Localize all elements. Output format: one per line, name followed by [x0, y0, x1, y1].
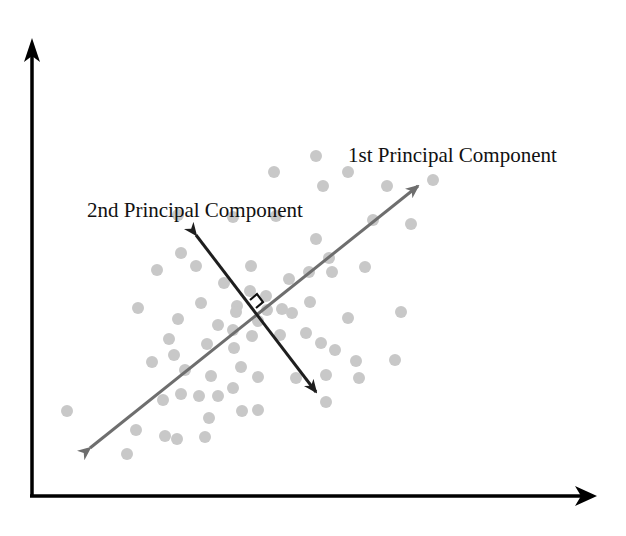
- data-point: [320, 369, 332, 381]
- data-point: [283, 273, 295, 285]
- data-point: [268, 166, 280, 178]
- data-point: [212, 390, 224, 402]
- data-point: [310, 233, 322, 245]
- data-point: [146, 356, 158, 368]
- data-point: [235, 361, 247, 373]
- data-point: [130, 424, 142, 436]
- data-point: [171, 433, 183, 445]
- data-point: [405, 218, 417, 230]
- data-point: [427, 174, 439, 186]
- data-point: [304, 296, 316, 308]
- data-point: [300, 327, 312, 339]
- data-point: [395, 306, 407, 318]
- data-point: [227, 382, 239, 394]
- data-point: [329, 344, 341, 356]
- data-point: [151, 264, 163, 276]
- data-point: [315, 337, 327, 349]
- data-point: [290, 372, 302, 384]
- data-point: [350, 355, 362, 367]
- data-point: [61, 405, 73, 417]
- data-point: [190, 260, 202, 272]
- data-point: [168, 349, 180, 361]
- data-point: [359, 261, 371, 273]
- second-pc-label: 2nd Principal Component: [87, 198, 303, 222]
- second-pc-arrow: [196, 235, 316, 392]
- data-point: [201, 338, 213, 350]
- data-point: [159, 430, 171, 442]
- data-point: [310, 150, 322, 162]
- data-point: [252, 404, 264, 416]
- data-point: [252, 371, 264, 383]
- data-point: [132, 302, 144, 314]
- first-pc-label: 1st Principal Component: [348, 143, 557, 167]
- data-point: [320, 396, 332, 408]
- data-point: [199, 431, 211, 443]
- data-point: [212, 319, 224, 331]
- data-point: [163, 333, 175, 345]
- data-point: [175, 247, 187, 259]
- data-point: [193, 390, 205, 402]
- data-point: [342, 312, 354, 324]
- data-point: [246, 330, 258, 342]
- data-point: [381, 180, 393, 192]
- data-point: [317, 180, 329, 192]
- data-point: [203, 412, 215, 424]
- data-point: [342, 166, 354, 178]
- data-point: [228, 342, 240, 354]
- data-point: [389, 354, 401, 366]
- data-point: [236, 405, 248, 417]
- data-point: [195, 297, 207, 309]
- data-point: [230, 306, 242, 318]
- data-point: [245, 260, 257, 272]
- data-point: [353, 372, 365, 384]
- pca-diagram: 1st Principal Component 2nd Principal Co…: [0, 0, 626, 536]
- data-point: [286, 307, 298, 319]
- data-point: [326, 266, 338, 278]
- data-point: [172, 313, 184, 325]
- data-point: [121, 448, 133, 460]
- data-point: [157, 394, 169, 406]
- data-point: [175, 388, 187, 400]
- data-point: [205, 370, 217, 382]
